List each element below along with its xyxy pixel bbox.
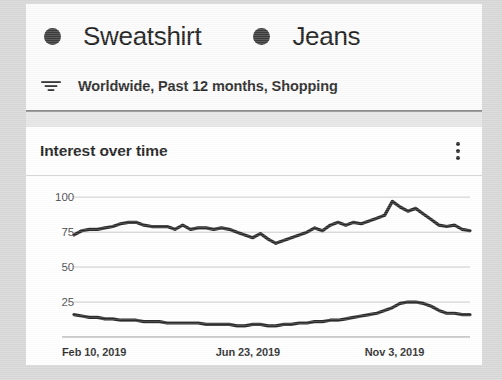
chart-title: Interest over time [40, 142, 167, 160]
chart-plot-area[interactable]: 100755025 Feb 10, 2019Jun 23, 2019Nov 3,… [26, 176, 482, 365]
x-tick-label: Nov 3, 2019 [365, 346, 424, 358]
y-tick-label: 25 [36, 296, 74, 308]
y-tick-label: 50 [36, 261, 74, 273]
series-line-jeans [74, 302, 470, 326]
x-tick-label: Jun 23, 2019 [216, 346, 280, 358]
legend-label-jeans: Jeans [292, 21, 360, 52]
gridlines [74, 197, 470, 302]
series-line-sweatshirt [74, 201, 470, 243]
legend-card: Sweatshirt Jeans Worldwide, Past 12 mont… [26, 4, 482, 112]
card-gap-band [26, 112, 482, 127]
legend-label-sweatshirt: Sweatshirt [83, 21, 201, 52]
series-lines [74, 201, 470, 325]
y-tick-label: 75 [36, 226, 74, 238]
screen-root: Sweatshirt Jeans Worldwide, Past 12 mont… [0, 0, 502, 380]
y-tick-label: 100 [36, 191, 74, 203]
legend-item-jeans[interactable]: Jeans [253, 21, 360, 52]
legend-dot-icon [44, 28, 61, 45]
line-chart-svg [26, 176, 482, 365]
chart-card-header: Interest over time [26, 127, 482, 175]
x-axis-tick-labels: Feb 10, 2019Jun 23, 2019Nov 3, 2019 [26, 344, 482, 364]
more-vertical-icon[interactable] [450, 140, 466, 162]
interest-over-time-card: Interest over time 100755025 Feb 10, 201… [26, 127, 482, 365]
filter-tune-icon [40, 78, 62, 94]
x-tick-label: Feb 10, 2019 [62, 346, 126, 358]
filter-summary-text: Worldwide, Past 12 months, Shopping [78, 78, 338, 94]
y-axis-tick-labels: 100755025 [30, 176, 74, 365]
legend: Sweatshirt Jeans [26, 10, 482, 62]
legend-item-sweatshirt[interactable]: Sweatshirt [44, 21, 201, 52]
legend-dot-icon [253, 28, 270, 45]
filter-summary-row[interactable]: Worldwide, Past 12 months, Shopping [26, 66, 482, 106]
